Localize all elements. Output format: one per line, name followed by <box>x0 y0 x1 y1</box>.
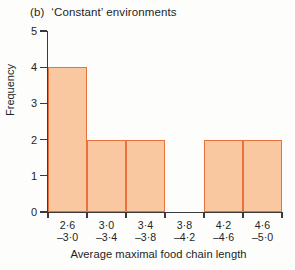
y-axis-tick <box>40 175 47 176</box>
y-axis-tick <box>40 139 47 140</box>
y-axis-title: Frequency <box>4 53 16 127</box>
y-axis-tick-label: 5 <box>25 25 37 37</box>
y-axis-tick <box>40 67 47 68</box>
x-axis-tick <box>281 212 282 218</box>
bin-upper-bound: –3·0 <box>48 231 87 243</box>
y-axis-tick-label: 4 <box>25 61 37 73</box>
x-axis-bin-label: 3·0–3·4 <box>87 219 126 244</box>
x-axis-tick <box>86 212 87 218</box>
bin-upper-bound: –3·4 <box>87 231 126 243</box>
figure-title-text: ‘Constant’ environments <box>51 6 176 18</box>
bin-upper-bound: –5·0 <box>243 231 282 243</box>
histogram-figure: (b)‘Constant’ environments Frequency Ave… <box>0 0 295 270</box>
y-axis-tick <box>40 211 47 212</box>
x-axis-tick <box>125 212 126 218</box>
x-axis-bin-label: 3·8–4·2 <box>165 219 204 244</box>
x-axis-bin-label: 4·6–5·0 <box>243 219 282 244</box>
histogram-bar <box>243 140 282 212</box>
plot-area <box>48 31 282 212</box>
bin-lower-bound: 2·6 <box>48 219 87 231</box>
x-axis-title: Average maximal food chain length <box>0 248 295 260</box>
bin-lower-bound: 3·8 <box>165 219 204 231</box>
bin-upper-bound: –4·6 <box>204 231 243 243</box>
y-axis-tick-label: 3 <box>25 97 37 109</box>
y-axis-tick <box>40 103 47 104</box>
bin-lower-bound: 3·0 <box>87 219 126 231</box>
histogram-bar <box>126 140 165 212</box>
y-axis-tick <box>40 30 47 31</box>
panel-letter-label: (b) <box>30 6 44 18</box>
histogram-bar <box>87 140 126 212</box>
y-axis-tick-label: 2 <box>25 134 37 146</box>
histogram-bar <box>48 67 87 212</box>
x-axis-tick <box>47 212 48 218</box>
bin-upper-bound: –4·2 <box>165 231 204 243</box>
bin-upper-bound: –3·8 <box>126 231 165 243</box>
x-axis-tick <box>203 212 204 218</box>
x-axis-tick <box>164 212 165 218</box>
y-axis-tick-label: 1 <box>25 170 37 182</box>
bin-lower-bound: 3·4 <box>126 219 165 231</box>
bin-lower-bound: 4·6 <box>243 219 282 231</box>
x-axis-bin-label: 3·4–3·8 <box>126 219 165 244</box>
x-axis-bin-label: 2·6–3·0 <box>48 219 87 244</box>
figure-title: (b)‘Constant’ environments <box>30 6 177 18</box>
histogram-bar <box>204 140 243 212</box>
y-axis-tick-label: 0 <box>25 206 37 218</box>
bin-lower-bound: 4·2 <box>204 219 243 231</box>
x-axis-bin-label: 4·2–4·6 <box>204 219 243 244</box>
x-axis-tick <box>242 212 243 218</box>
